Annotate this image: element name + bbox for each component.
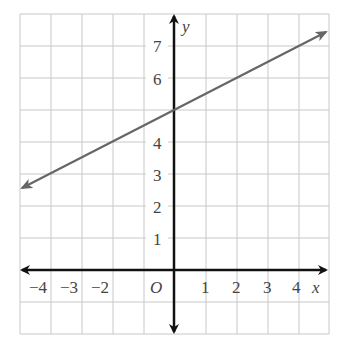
plotted-line [174,32,326,110]
x-tick-3: 3 [263,278,272,297]
y-tick-1: 1 [153,230,162,249]
x-tick-m3: −3 [60,278,78,297]
x-axis-label: x [311,278,320,297]
origin-label: O [150,278,162,297]
y-tick-4: 4 [153,134,162,153]
x-tick-2: 2 [232,278,241,297]
x-tick-4: 4 [292,278,301,297]
x-tick-m4: −4 [29,278,48,297]
y-axis-label: y [180,17,190,36]
y-tick-3: 3 [153,166,162,185]
coordinate-plane: y x O 7 6 4 3 2 1 −4 −3 −2 1 2 3 4 [0,0,337,351]
x-tick-m2: −2 [91,278,109,297]
y-tick-2: 2 [153,198,162,217]
y-tick-6: 6 [153,70,162,89]
y-tick-7: 7 [153,37,162,56]
x-tick-1: 1 [201,278,210,297]
